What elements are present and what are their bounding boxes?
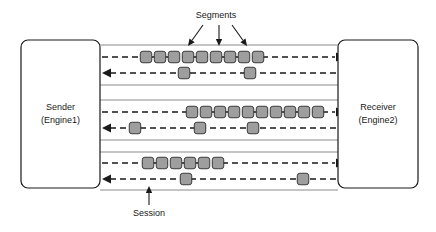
network-session-diagram: Sender(Engine1)Receiver(Engine2) Segment…: [0, 0, 436, 232]
segment-s3-forward-3: [170, 157, 182, 169]
segments-layer: [129, 51, 324, 185]
endpoint-name-sender: Sender: [46, 102, 75, 112]
reverse-flow-arrowhead-1: [102, 69, 111, 78]
segment-s3-forward-2: [156, 157, 168, 169]
segment-s2-forward-6: [256, 106, 268, 118]
segment-s3-forward-6: [212, 157, 224, 169]
segment-s3-forward-1: [142, 157, 154, 169]
diagram-canvas: Sender(Engine1)Receiver(Engine2) Segment…: [0, 0, 436, 232]
segment-s1-forward-6: [210, 51, 222, 63]
segment-s2-reverse-1: [129, 122, 141, 134]
segment-s1-reverse-2: [244, 67, 256, 79]
segment-s3-forward-4: [184, 157, 196, 169]
segment-s2-forward-5: [242, 106, 254, 118]
endpoint-box-receiver[interactable]: [338, 40, 418, 188]
callout-label-segments: Segments: [196, 10, 237, 20]
segment-s2-forward-4: [228, 106, 240, 118]
segment-s1-forward-4: [182, 51, 194, 63]
segment-s2-forward-9: [298, 106, 310, 118]
callout-arrow-line-segments-3: [232, 25, 243, 40]
segment-s1-forward-3: [168, 51, 180, 63]
segment-s1-forward-1: [140, 51, 152, 63]
segment-s2-forward-7: [270, 106, 282, 118]
endpoint-sublabel-receiver: (Engine2): [358, 115, 397, 125]
segment-s1-forward-5: [196, 51, 208, 63]
segment-s2-forward-1: [186, 106, 198, 118]
segment-s2-reverse-3: [247, 122, 259, 134]
endpoint-name-receiver: Receiver: [360, 102, 396, 112]
segment-s1-forward-9: [252, 51, 264, 63]
callout-arrow-line-segments-1: [192, 25, 203, 40]
segment-s2-reverse-2: [194, 122, 206, 134]
reverse-flow-arrowhead-2: [102, 124, 111, 133]
endpoint-sublabel-sender: (Engine1): [41, 115, 80, 125]
segment-s3-reverse-2: [297, 173, 309, 185]
callout-label-session: Session: [133, 208, 165, 218]
segment-s2-forward-10: [312, 106, 324, 118]
segment-s3-reverse-1: [180, 173, 192, 185]
segment-s1-forward-7: [224, 51, 236, 63]
segment-s1-forward-8: [238, 51, 250, 63]
segment-s3-forward-5: [198, 157, 210, 169]
segment-s1-forward-2: [154, 51, 166, 63]
segment-s2-forward-2: [200, 106, 212, 118]
endpoint-box-sender[interactable]: [21, 40, 100, 188]
segment-s1-reverse-1: [178, 67, 190, 79]
segment-s2-forward-3: [214, 106, 226, 118]
segment-s2-forward-8: [284, 106, 296, 118]
reverse-flow-arrowhead-3: [102, 175, 111, 184]
